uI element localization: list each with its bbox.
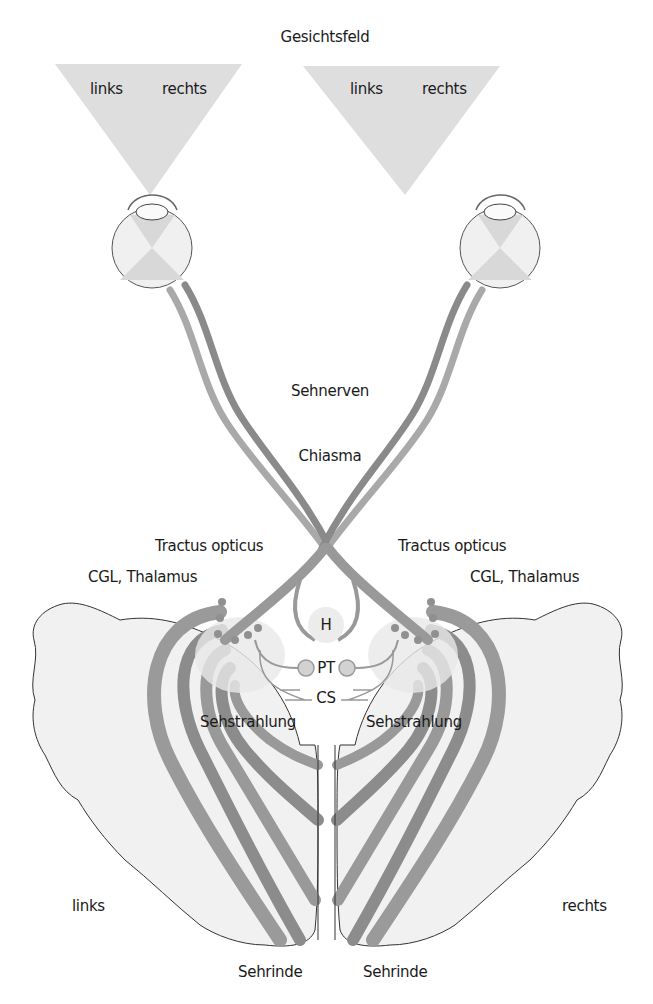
hypothalamus-label: H (321, 616, 332, 634)
cortex-right-label: Sehrinde (363, 963, 427, 981)
eye-left (112, 195, 192, 288)
pretectum-label: PT (317, 659, 335, 677)
visual-pathway-diagram: Gesichtsfeld links rechts links rechts S… (0, 0, 653, 1004)
midline-fissure (318, 745, 335, 940)
diagram-artwork (0, 0, 653, 1004)
optic-tract-right-label: Tractus opticus (398, 537, 506, 555)
hemisphere-right-label: rechts (562, 897, 607, 915)
optic-nerves-label: Sehnerven (291, 382, 369, 400)
lgn-left-label: CGL, Thalamus (88, 568, 197, 586)
optic-tract-left-label: Tractus opticus (155, 537, 263, 555)
field-right-eye-left-label: links (350, 80, 383, 98)
pretectum-right-nucleus (339, 660, 355, 676)
diagram-title: Gesichtsfeld (281, 28, 370, 46)
chiasm-label: Chiasma (299, 447, 362, 465)
field-right-eye-right-label: rechts (422, 80, 467, 98)
field-left-eye-left-label: links (90, 80, 123, 98)
optic-nerves (170, 285, 482, 548)
field-left-eye-right-label: rechts (162, 80, 207, 98)
pretectum-left-nucleus (298, 660, 314, 676)
visual-field-right-eye (303, 66, 500, 195)
superior-colliculus-label: CS (316, 689, 335, 707)
radiation-right-label: Sehstrahlung (366, 713, 462, 731)
lgn-right-label: CGL, Thalamus (470, 568, 579, 586)
cortex-left-label: Sehrinde (238, 963, 302, 981)
visual-field-left-eye (55, 64, 242, 195)
radiation-left-label: Sehstrahlung (200, 713, 296, 731)
hemisphere-left-label: links (72, 897, 105, 915)
eye-right (460, 195, 540, 288)
